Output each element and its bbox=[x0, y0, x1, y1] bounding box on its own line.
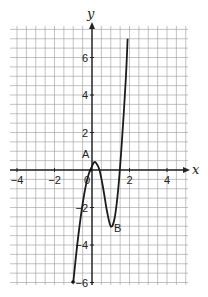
curve-end-point bbox=[71, 280, 75, 284]
x-tick-label: 2 bbox=[126, 174, 132, 186]
y-axis-arrow-icon bbox=[89, 22, 95, 29]
origin-label: 0 bbox=[84, 174, 90, 186]
x-tick-label: −2 bbox=[48, 174, 61, 186]
origin-point bbox=[89, 168, 92, 171]
x-axis-arrow-icon bbox=[183, 167, 190, 173]
x-tick-label: −4 bbox=[11, 174, 24, 186]
x-axis-title: x bbox=[192, 162, 200, 177]
grid bbox=[10, 26, 188, 285]
point-b-label: B bbox=[114, 222, 121, 234]
y-tick-label: 6 bbox=[82, 52, 88, 64]
y-tick-label: −6 bbox=[75, 277, 88, 289]
cubic-graph: x y −4−224−6−4−2246 A B 0 bbox=[0, 0, 208, 297]
y-axis-title: y bbox=[86, 6, 95, 21]
x-tick-label: 4 bbox=[164, 174, 170, 186]
point-a-label: A bbox=[82, 148, 90, 160]
y-tick-label: 2 bbox=[82, 127, 88, 139]
y-tick-label: 4 bbox=[82, 89, 88, 101]
